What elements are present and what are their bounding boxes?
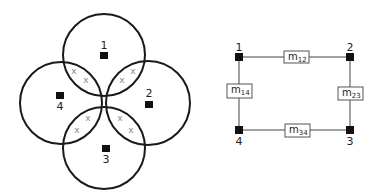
node-marker-1	[100, 52, 108, 59]
x-mark: x	[85, 113, 91, 123]
node-marker-3	[102, 145, 110, 152]
graph-node-4	[235, 126, 243, 134]
node-label-2: 2	[146, 87, 153, 100]
figure: 1 2 3 4 x x x x x x x x 1 2 3 4 m12 m23	[0, 0, 382, 196]
node-marker-4	[56, 92, 64, 99]
node-marker-2	[145, 101, 153, 108]
x-mark: x	[117, 113, 123, 123]
graph-node-label-3: 3	[347, 135, 354, 148]
graph-node-3	[346, 126, 354, 134]
graph-node-label-1: 1	[236, 41, 243, 54]
graph-node-1	[235, 53, 243, 61]
x-mark: x	[119, 75, 125, 85]
overlap-diagram: 1 2 3 4 x x x x x x x x	[20, 14, 190, 189]
x-mark: x	[83, 75, 89, 85]
x-mark: x	[71, 66, 77, 76]
node-label-4: 4	[57, 100, 64, 113]
node-label-3: 3	[103, 153, 110, 166]
x-mark: x	[130, 66, 136, 76]
x-mark: x	[74, 125, 80, 135]
node-label-1: 1	[101, 39, 108, 52]
x-mark: x	[128, 125, 134, 135]
graph-node-label-4: 4	[236, 135, 243, 148]
graph-node-label-2: 2	[347, 41, 354, 54]
message-graph: 1 2 3 4 m12 m23 m34 m14	[227, 41, 363, 148]
graph-node-2	[346, 53, 354, 61]
